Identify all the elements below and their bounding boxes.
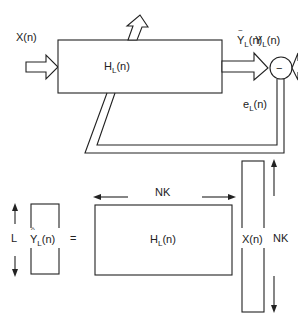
arrow-down-icon (271, 305, 277, 313)
reference-label: YL(n) (255, 34, 280, 49)
estimate-arrow-icon (222, 53, 268, 80)
arrow-down-icon (12, 269, 18, 277)
filter-block (58, 40, 222, 93)
arrow-up-icon (271, 159, 277, 167)
summing-minus: − (276, 62, 282, 74)
input-arrow-icon (26, 55, 58, 79)
input-vector-label: X(n) (242, 233, 263, 245)
matrix-label: HL(n) (150, 233, 176, 248)
estimate-tilde: ~ (238, 26, 243, 35)
arrow-left-icon (93, 194, 101, 200)
adaptive-filter-diagram: X(n) HL(n) YL(n) ~ − YL(n) eL(n) L YL(n)… (0, 0, 298, 320)
output-vector-hat: ^ (31, 225, 35, 234)
arrow-right-icon (228, 194, 236, 200)
arrow-up-icon (12, 203, 18, 211)
output-dim-label: L (11, 232, 17, 244)
reference-arrow-head-icon (292, 53, 298, 80)
matrix-width-label: NK (155, 186, 171, 198)
input-dim-label: NK (273, 232, 289, 244)
equals-sign: = (70, 232, 76, 244)
up-output-arrow-icon (127, 15, 148, 40)
input-label: X(n) (16, 31, 37, 43)
error-label: eL(n) (243, 98, 267, 113)
